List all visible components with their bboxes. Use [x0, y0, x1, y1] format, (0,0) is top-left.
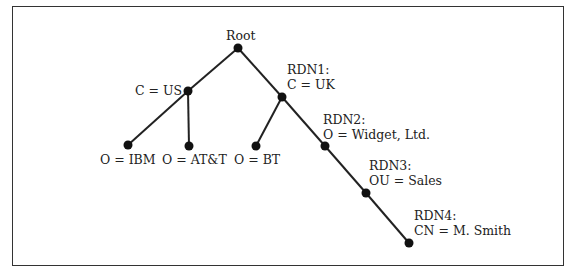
tree-node-smith — [405, 239, 414, 248]
tree-edge — [325, 146, 366, 193]
node-label-line: O = AT&T — [162, 152, 227, 167]
node-label-line: OU = Sales — [369, 173, 442, 188]
node-label-att: O = AT&T — [162, 152, 227, 167]
tree-edge — [256, 97, 282, 146]
tree-edge — [282, 97, 325, 146]
node-label-line: RDN3: — [369, 158, 442, 173]
node-label-line: O = IBM — [100, 152, 156, 167]
node-label-ibm: O = IBM — [100, 152, 156, 167]
tree-node-bt — [252, 142, 261, 151]
node-label-line: CN = M. Smith — [414, 223, 511, 238]
node-label-line: RDN2: — [323, 112, 430, 127]
node-label-line: C = UK — [287, 77, 335, 92]
tree-node-sales — [362, 189, 371, 198]
tree-node-root — [234, 44, 243, 53]
node-label-line: C = US — [135, 83, 182, 98]
tree-edge — [238, 48, 282, 97]
node-label-root: Root — [226, 28, 256, 43]
node-label-bt: O = BT — [234, 152, 280, 167]
tree-node-att — [185, 142, 194, 151]
node-label-line: RDN1: — [287, 62, 335, 77]
tree-edge — [366, 193, 409, 243]
node-label-widget: RDN2:O = Widget, Ltd. — [323, 112, 430, 142]
node-label-line: O = BT — [234, 152, 280, 167]
node-label-smith: RDN4:CN = M. Smith — [414, 208, 511, 238]
tree-node-uk — [278, 93, 287, 102]
tree-node-ibm — [124, 141, 133, 150]
tree-edge — [128, 91, 188, 145]
tree-node-us — [184, 87, 193, 96]
node-label-line: Root — [226, 28, 256, 43]
tree-edge — [188, 48, 238, 91]
node-label-line: O = Widget, Ltd. — [323, 127, 430, 142]
node-label-line: RDN4: — [414, 208, 511, 223]
node-label-us: C = US — [135, 83, 182, 98]
node-label-uk: RDN1:C = UK — [287, 62, 335, 92]
node-label-sales: RDN3:OU = Sales — [369, 158, 442, 188]
tree-edge — [188, 91, 189, 146]
tree-node-widget — [321, 142, 330, 151]
